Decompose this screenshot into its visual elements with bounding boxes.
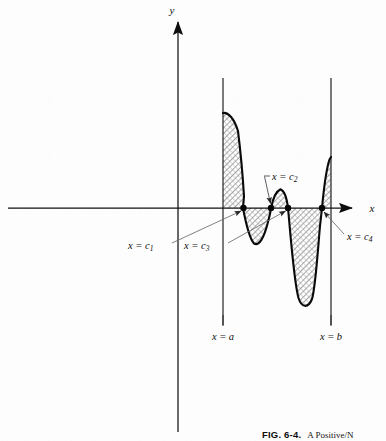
y-axis-label: y: [169, 4, 175, 16]
leader-line-c1: [172, 211, 241, 243]
text-labels: y x x = c1 x = c3 x = c2 x = c4 x = a x …: [127, 4, 375, 342]
leader-line-c4: [324, 212, 344, 234]
label-x-equals-c3: x = c3: [183, 240, 210, 253]
root-dot-c3: [285, 205, 291, 211]
leader-line-c2-arrow: [265, 177, 271, 204]
label-x-equals-c2: x = c2: [271, 171, 298, 184]
figure-canvas: y x x = c1 x = c3 x = c2 x = c4 x = a x …: [0, 0, 386, 441]
figure-6-4: y x x = c1 x = c3 x = c2 x = c4 x = a x …: [0, 0, 386, 441]
label-x-equals-c1: x = c1: [127, 240, 153, 253]
figure-caption-label: FIG. 6-4.: [262, 429, 301, 440]
label-x-equals-c4: x = c4: [346, 231, 373, 244]
label-x-equals-b: x = b: [319, 331, 342, 342]
label-x-equals-a: x = a: [211, 331, 234, 342]
figure-caption-text: A Positive/N: [307, 430, 353, 440]
x-axis-label: x: [369, 202, 375, 214]
figure-caption: FIG. 6-4.A Positive/N: [262, 424, 386, 441]
root-dot-c2: [268, 205, 274, 211]
root-dot-c1: [240, 205, 246, 211]
root-dot-c4: [319, 205, 325, 211]
